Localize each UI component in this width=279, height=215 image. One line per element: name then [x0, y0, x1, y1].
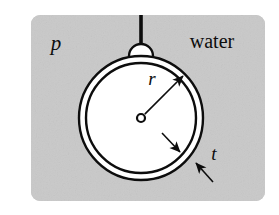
- pressure-label: p: [49, 31, 62, 55]
- sphere-center-point: [137, 114, 145, 122]
- radius-label: r: [148, 68, 156, 89]
- water-label: water: [190, 30, 235, 52]
- figure-container: p water r t: [0, 0, 279, 215]
- thickness-label: t: [211, 143, 217, 164]
- spherical-shell-diagram: p water r t: [0, 0, 279, 215]
